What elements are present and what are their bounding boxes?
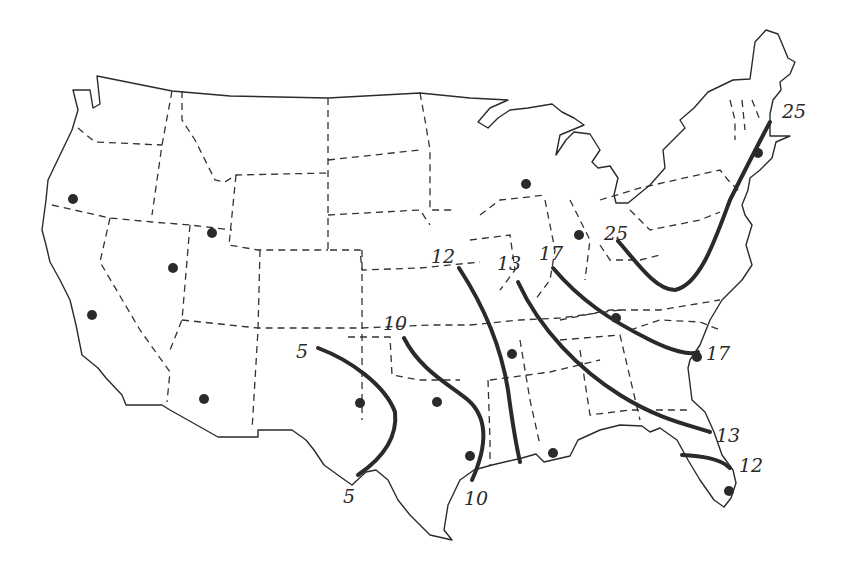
sites — [68, 148, 763, 496]
site-dot — [521, 179, 531, 189]
site-dot — [611, 313, 621, 323]
label-5-north: 5 — [296, 340, 308, 362]
site-dot — [692, 352, 702, 362]
label-10-south: 10 — [464, 487, 488, 509]
site-dot — [507, 349, 517, 359]
label-5-south: 5 — [343, 485, 355, 507]
site-dot — [207, 228, 217, 238]
label-10-north: 10 — [383, 312, 407, 334]
isoline-25 — [618, 122, 770, 290]
site-dot — [87, 310, 97, 320]
site-dot — [432, 397, 442, 407]
site-dot — [465, 451, 475, 461]
site-dot — [68, 194, 78, 204]
us-outline — [42, 30, 795, 540]
label-13-south: 13 — [716, 424, 740, 446]
label-17-north: 17 — [539, 242, 564, 264]
site-dot — [724, 486, 734, 496]
site-dot — [199, 394, 209, 404]
isoline-labels: 5 5 10 10 12 12 13 13 17 17 25 25 — [296, 100, 806, 509]
isoline-5 — [318, 348, 395, 475]
site-dot — [168, 263, 178, 273]
site-dot — [753, 148, 763, 158]
site-dot — [548, 448, 558, 458]
us-isoline-map: 5 5 10 10 12 12 13 13 17 17 25 25 — [0, 0, 841, 570]
site-dot — [574, 230, 584, 240]
label-17-south: 17 — [706, 342, 731, 364]
label-25-west: 25 — [603, 222, 628, 244]
label-12-north: 12 — [431, 245, 455, 267]
site-dot — [355, 398, 365, 408]
label-25-east: 25 — [781, 100, 806, 122]
isolines — [318, 122, 770, 480]
label-12-south: 12 — [739, 454, 763, 476]
label-13-north: 13 — [497, 252, 521, 274]
